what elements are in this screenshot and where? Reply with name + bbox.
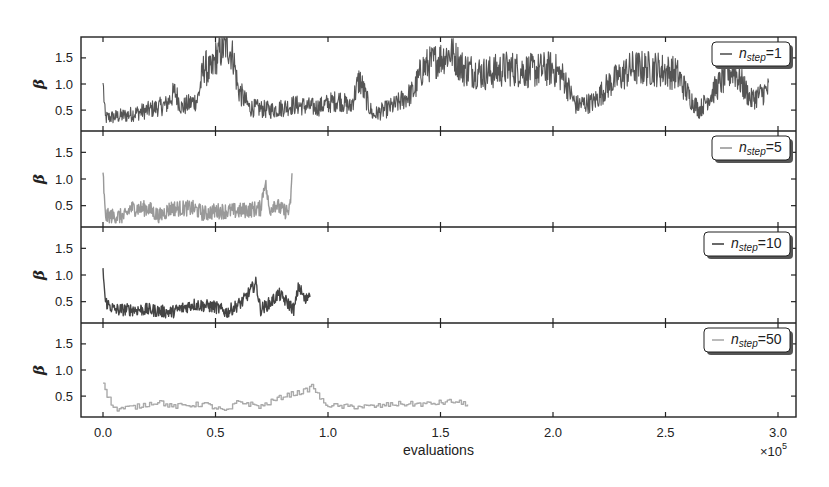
x-tick-label: 2.0	[544, 425, 562, 440]
legend-4: nstep=50	[704, 328, 793, 355]
y-axis-label: β	[30, 174, 48, 185]
x-tick-label: 3.0	[769, 425, 787, 440]
y-tick-label: 1.0	[55, 77, 73, 92]
x-tick-label: 0.5	[206, 425, 224, 440]
y-tick-label: 0.5	[55, 389, 73, 404]
x-tick-label: 2.5	[656, 425, 674, 440]
y-axis-label: β	[30, 79, 48, 90]
y-tick-label: 1.0	[55, 363, 73, 378]
panel-1: 0.51.01.5βnstep=1	[30, 37, 796, 131]
series-line-4	[103, 383, 468, 411]
x-tick-label: 0.0	[94, 425, 112, 440]
legend-2: nstep=5	[712, 136, 793, 163]
y-tick-label: 1.5	[55, 336, 73, 351]
legend-1: nstep=1	[712, 42, 793, 69]
panel-2: 0.51.01.5βnstep=5	[30, 131, 796, 227]
y-tick-label: 1.5	[55, 241, 73, 256]
y-tick-label: 1.5	[55, 50, 73, 65]
y-tick-label: 1.5	[55, 145, 73, 160]
series-line-3	[103, 268, 310, 318]
chart-stage: 0.51.01.5βnstep=10.51.01.5βnstep=50.51.0…	[0, 0, 829, 487]
y-axis-label: β	[30, 270, 48, 281]
panel-4: 0.51.01.5βnstep=50	[30, 323, 796, 417]
y-tick-label: 1.0	[55, 268, 73, 283]
x-tick-label: 1.0	[319, 425, 337, 440]
series-line-2	[103, 173, 292, 223]
x-axis-label: evaluations	[403, 442, 474, 458]
legend-3: nstep=10	[704, 232, 793, 259]
y-tick-label: 0.5	[55, 294, 73, 309]
y-tick-label: 0.5	[55, 103, 73, 118]
y-tick-label: 1.0	[55, 172, 73, 187]
x-axis-multiplier: ×105	[760, 441, 787, 459]
series-line-1	[103, 38, 769, 123]
y-axis-label: β	[30, 365, 48, 376]
panel-3: 0.51.01.5βnstep=10	[30, 227, 796, 323]
stacked-line-chart: 0.51.01.5βnstep=10.51.01.5βnstep=50.51.0…	[0, 0, 829, 487]
x-tick-label: 1.5	[431, 425, 449, 440]
y-tick-label: 0.5	[55, 198, 73, 213]
